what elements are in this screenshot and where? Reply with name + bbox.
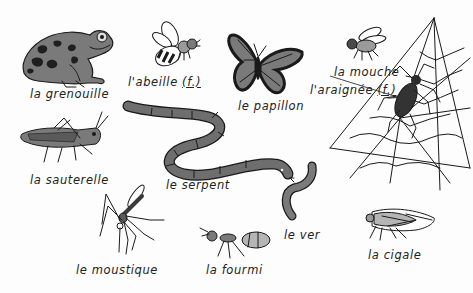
bee-illustration xyxy=(150,20,205,70)
label-mosquito: le moustique xyxy=(76,264,158,276)
cicada-illustration xyxy=(362,206,438,246)
label-cicada: la cigale xyxy=(368,249,421,261)
label-spider: l'araignée (f.) xyxy=(310,84,396,96)
frog-illustration xyxy=(18,25,118,90)
label-worm: le ver xyxy=(284,229,320,241)
label-frog: la grenouille xyxy=(30,88,109,100)
snake-illustration xyxy=(124,104,294,184)
ant-illustration xyxy=(200,226,272,260)
label-bee: l'abeille (f.) xyxy=(128,76,201,88)
label-snake: le serpent xyxy=(166,179,230,191)
mosquito-illustration xyxy=(96,184,168,256)
vocabulary-illustration: la grenouille l'abeille (f.) le papillon… xyxy=(0,0,473,293)
spider-web-illustration xyxy=(330,18,473,193)
worm-illustration xyxy=(282,162,322,224)
label-ant: la fourmi xyxy=(206,264,263,276)
grasshopper-illustration xyxy=(18,112,108,167)
butterfly-illustration xyxy=(226,30,306,100)
